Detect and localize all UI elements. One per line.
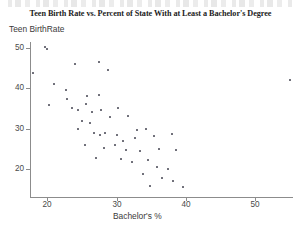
- x-tick-label: 20: [37, 200, 57, 209]
- x-axis-label: Bachelor's %: [113, 211, 162, 221]
- data-point: [53, 83, 55, 85]
- data-point: [117, 107, 119, 109]
- data-point: [48, 104, 50, 106]
- data-point: [145, 128, 147, 130]
- data-point: [139, 150, 141, 152]
- data-point: [289, 79, 291, 81]
- data-point: [100, 109, 102, 111]
- data-point: [104, 132, 106, 134]
- data-point: [153, 135, 155, 137]
- data-point: [103, 147, 105, 149]
- data-point: [134, 137, 136, 139]
- data-point: [44, 46, 46, 48]
- data-point: [77, 128, 79, 130]
- data-point: [93, 132, 95, 134]
- data-point: [142, 173, 144, 175]
- data-point: [131, 161, 133, 163]
- data-point: [136, 129, 138, 131]
- data-point: [98, 94, 100, 96]
- data-point: [99, 134, 101, 136]
- y-tick-mark: [26, 169, 30, 170]
- x-tick-label: 30: [107, 200, 127, 209]
- y-tick-label: 40: [4, 83, 24, 92]
- y-tick-label: 30: [4, 124, 24, 133]
- data-point: [120, 158, 122, 160]
- data-point: [98, 61, 100, 63]
- x-tick-label: 50: [245, 200, 265, 209]
- data-point: [182, 186, 184, 188]
- scatter-plot-figure: Teen Birth Rate vs. Percent of State Wit…: [0, 0, 301, 230]
- cutoff-text-artifact: [8, 0, 293, 7]
- data-point: [161, 177, 163, 179]
- data-point: [172, 180, 174, 182]
- data-point: [167, 168, 169, 170]
- y-axis-label: Teen BirthRate: [9, 24, 64, 34]
- data-point: [122, 140, 124, 142]
- data-point: [77, 109, 79, 111]
- data-point: [85, 103, 87, 105]
- y-tick-mark: [26, 88, 30, 89]
- data-point: [89, 122, 91, 124]
- x-axis-line: [30, 197, 293, 198]
- data-point: [91, 111, 93, 113]
- data-point: [109, 116, 111, 118]
- data-point: [46, 48, 48, 50]
- chart-title: Teen Birth Rate vs. Percent of State Wit…: [0, 9, 301, 18]
- data-point: [65, 89, 67, 91]
- data-point: [86, 95, 88, 97]
- data-point: [158, 148, 160, 150]
- data-point: [81, 120, 83, 122]
- data-point: [125, 149, 127, 151]
- data-point: [32, 72, 34, 74]
- x-tick-label: 40: [176, 200, 196, 209]
- data-point: [114, 144, 116, 146]
- data-point: [147, 159, 149, 161]
- data-point: [156, 166, 158, 168]
- data-point: [175, 149, 177, 151]
- data-point: [66, 98, 68, 100]
- data-point: [127, 115, 129, 117]
- y-tick-label: 50: [4, 43, 24, 52]
- y-tick-mark: [26, 129, 30, 130]
- data-point: [84, 144, 86, 146]
- data-point: [171, 133, 173, 135]
- data-point: [149, 185, 151, 187]
- data-point: [95, 157, 97, 159]
- y-tick-label: 20: [4, 164, 24, 173]
- data-point: [107, 69, 109, 71]
- y-axis-line: [30, 42, 31, 198]
- data-point: [74, 63, 76, 65]
- y-tick-mark: [26, 48, 30, 49]
- data-point: [71, 107, 73, 109]
- data-point: [116, 134, 118, 136]
